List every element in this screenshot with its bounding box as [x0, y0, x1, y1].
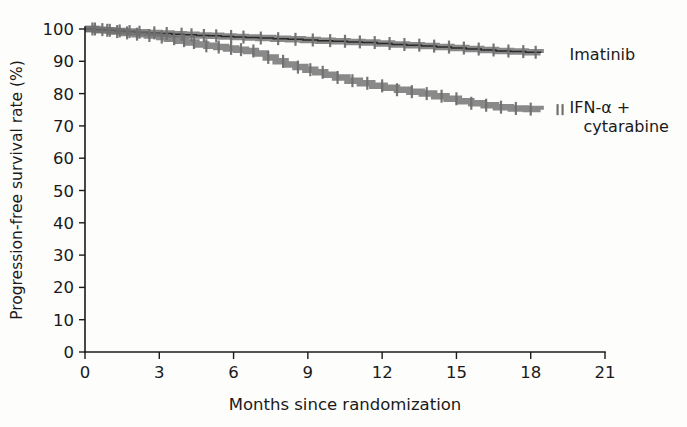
x-tick-label-6: 6 [228, 363, 239, 382]
x-tick-label-18: 18 [520, 363, 541, 382]
y-tick-label-20: 20 [53, 278, 74, 297]
figure-container: 0102030405060708090100036912151821 Imati… [0, 0, 687, 427]
x-tick-label-12: 12 [372, 363, 393, 382]
y-tick-label-30: 30 [53, 246, 74, 265]
y-tick-label-10: 10 [53, 311, 74, 330]
y-tick-label-40: 40 [53, 214, 74, 233]
x-tick-label-21: 21 [595, 363, 616, 382]
x-tick-label-3: 3 [154, 363, 165, 382]
x-axis-title: Months since randomization [229, 395, 462, 414]
x-tick-label-9: 9 [303, 363, 314, 382]
legend-label-ifn-cytarabine: IFN-α + [570, 98, 631, 117]
y-tick-label-0: 0 [64, 343, 75, 362]
progression-free-survival-chart: 0102030405060708090100036912151821 Imati… [0, 0, 687, 427]
y-axis-title: Progression-free survival rate (%) [8, 60, 26, 320]
x-tick-label-15: 15 [446, 363, 467, 382]
y-tick-label-50: 50 [53, 182, 74, 201]
legend-label-imatinib: Imatinib [570, 45, 636, 64]
y-tick-label-100: 100 [43, 20, 75, 39]
y-tick-label-90: 90 [53, 52, 74, 71]
y-tick-label-80: 80 [53, 85, 74, 104]
x-tick-label-0: 0 [80, 363, 91, 382]
y-tick-label-70: 70 [53, 117, 74, 136]
legend-label-ifn-cytarabine-line2: cytarabine [584, 117, 669, 136]
legend-layer: ImatinibIFN-α +cytarabine [558, 45, 669, 136]
y-tick-label-60: 60 [53, 149, 74, 168]
